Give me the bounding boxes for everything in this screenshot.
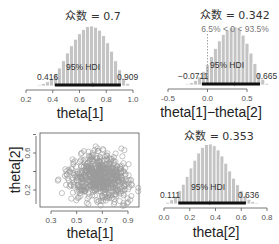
histogram-bar — [245, 43, 249, 85]
histogram-bar — [166, 202, 170, 204]
tick-label: 0.2 — [23, 184, 32, 196]
histogram-bar — [205, 145, 209, 204]
scatter-points — [55, 144, 141, 208]
histogram-bar — [232, 178, 236, 204]
x-axis: 0.00.20.40.60.8 — [158, 208, 273, 222]
x-axis: -0.50.00.5 — [161, 89, 253, 103]
histogram-bar — [229, 28, 233, 85]
scatter-point — [95, 199, 100, 204]
tick-label: -0.5 — [161, 94, 175, 103]
hdi-low-label: 0.111 — [160, 190, 180, 200]
tick-label: 0.4 — [210, 213, 222, 222]
histogram-bar — [102, 36, 106, 86]
histogram-bar — [37, 85, 41, 86]
hdi-label: 95% HDI — [191, 182, 225, 192]
panel-theta2-histogram: 众数 = 0.353 95% HDI 0.111 0.636 0.00.20.4… — [158, 130, 273, 240]
tick-label: 0.0 — [158, 213, 170, 222]
histogram-bar — [185, 176, 189, 204]
tick-label: 0.4 — [47, 95, 59, 104]
histogram-bar — [106, 43, 110, 86]
tick-label: 0.7 — [97, 216, 109, 225]
hdi-label: 95% HDI — [210, 60, 244, 70]
histogram-bar — [77, 34, 81, 86]
histogram-bar — [216, 150, 220, 204]
panel-scatter: 0.30.50.70.9 0.20.6 theta[1] theta[2] — [7, 133, 141, 241]
histogram-bar — [98, 30, 102, 86]
histogram-bar — [251, 202, 255, 204]
histogram-bar — [110, 51, 114, 86]
histogram-bar — [186, 84, 190, 85]
hdi-label: 95% HDI — [66, 62, 100, 72]
histogram-bar — [181, 184, 185, 204]
histogram-bar — [45, 82, 49, 86]
tick-label: 0.6 — [74, 95, 86, 104]
histogram-bar — [259, 203, 263, 204]
histogram-bar — [90, 26, 94, 86]
x-axis-label: theta[1] — [57, 105, 104, 121]
histogram-bar — [86, 27, 90, 86]
hdi-low-label: −0.0711 — [178, 71, 209, 81]
mode-label: 众数 = 0.7 — [65, 10, 121, 23]
tick-label: 0.9 — [122, 216, 134, 225]
x-axis-label: theta[2] — [193, 224, 240, 240]
histogram-bar — [201, 148, 205, 204]
histogram-bar — [94, 27, 98, 86]
tick-label: 0.6 — [236, 213, 248, 222]
histogram-bar — [61, 61, 65, 86]
posterior-plots: 众数 = 0.7 95% HDI 0.416 0.909 0.20.40.60.… — [0, 0, 279, 244]
histogram-bar — [265, 83, 269, 85]
tick-label: 0.2 — [184, 213, 196, 222]
histogram-bar — [228, 171, 232, 204]
tick-label: 0.3 — [45, 216, 57, 225]
histogram-bar — [126, 84, 130, 86]
panel-difference-histogram: 众数 = 0.342 6.5% < 0 < 93.5% 95% HDI −0.0… — [160, 9, 277, 120]
histogram-bar — [255, 203, 259, 204]
comparison-label: 6.5% < 0 < 93.5% — [201, 24, 269, 34]
x-axis-label: theta[1] — [67, 225, 114, 241]
tick-label: 0.8 — [261, 213, 273, 222]
hdi-high-label: 0.636 — [238, 190, 260, 200]
histogram-bar — [208, 144, 212, 204]
scatter-point — [126, 173, 131, 178]
tick-label: 0.5 — [241, 94, 253, 103]
histogram-bar — [82, 30, 86, 86]
tick-label: 0.5 — [71, 216, 83, 225]
hdi-low-label: 0.416 — [37, 72, 59, 82]
histogram-bar — [190, 83, 194, 85]
tick-label: 0.6 — [23, 147, 32, 159]
scatter-point — [86, 202, 91, 207]
y-axis: 0.20.6 — [23, 135, 36, 205]
histogram-bar — [233, 27, 237, 85]
scatter-point — [136, 189, 141, 194]
tick-label: 0.8 — [101, 95, 113, 104]
tick-label: 0.2 — [20, 95, 32, 104]
histogram-bar — [197, 153, 201, 204]
mode-label: 众数 = 0.342 — [200, 9, 270, 22]
y-axis-label: theta[2] — [7, 147, 23, 194]
hdi-high-label: 0.909 — [117, 72, 139, 82]
scatter-point — [69, 196, 74, 201]
histogram-bar — [194, 80, 198, 85]
histogram-bar — [41, 84, 45, 86]
panel-theta1-histogram: 众数 = 0.7 95% HDI 0.416 0.909 0.20.40.60.… — [20, 10, 139, 121]
histogram-bar — [220, 156, 224, 204]
histogram-bar — [249, 53, 253, 85]
tick-label: 0.0 — [202, 94, 214, 103]
x-axis: 0.20.40.60.81.0 — [20, 90, 139, 104]
histogram-bar — [170, 200, 174, 204]
tick-label: 1.0 — [127, 95, 139, 104]
scatter-point — [119, 146, 124, 151]
mode-label: 众数 = 0.353 — [184, 130, 254, 143]
histogram-bar — [225, 30, 229, 85]
scatter-point — [120, 154, 125, 159]
scatter-point — [59, 191, 64, 196]
histogram-bar — [237, 29, 241, 85]
x-axis-label: theta[1]−theta[2] — [160, 104, 262, 120]
x-axis: 0.30.50.70.9 — [45, 211, 134, 225]
scatter-point — [122, 148, 127, 153]
histogram-bar — [212, 146, 216, 204]
hdi-high-label: 0.665 — [256, 71, 278, 81]
